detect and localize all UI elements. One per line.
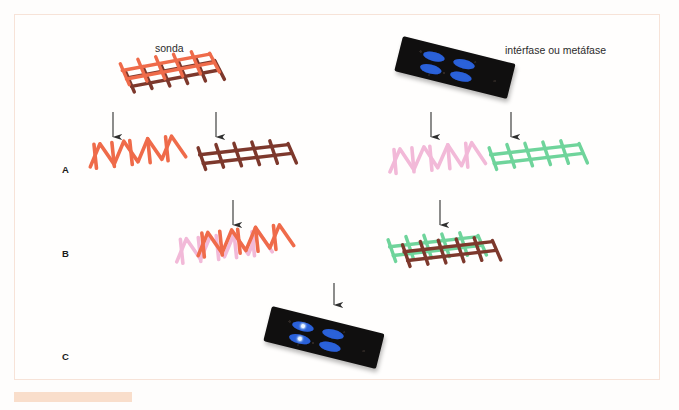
row-a-strand-green — [489, 139, 587, 170]
row-b-hybrid-green-brown — [388, 230, 501, 268]
arrow-group-denaturation-target — [431, 112, 511, 137]
probe-double-strand — [120, 48, 224, 94]
row-a-strand-orange — [88, 135, 186, 169]
row-a-strand-brown — [198, 139, 296, 170]
strand-and-arrow-layer — [0, 0, 679, 410]
row-b-hybrid-pink-orange — [174, 224, 294, 264]
arrow-group-a-to-b — [233, 200, 440, 225]
fish-diagram-figure: sonda intérfase ou metáfase A B C — [0, 0, 679, 410]
row-a-strand-pink — [388, 142, 486, 174]
arrow-group-denaturation-probe — [113, 112, 216, 137]
